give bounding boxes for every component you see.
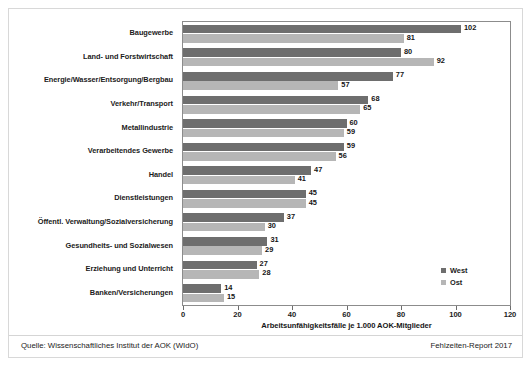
bar-value-west: 80	[404, 48, 412, 57]
bar-ost	[183, 129, 344, 138]
bar-ost	[183, 176, 295, 185]
x-tick-label: 60	[335, 310, 359, 319]
bar-value-ost: 59	[347, 128, 355, 137]
bar-value-ost: 57	[341, 81, 349, 90]
bar-west	[183, 96, 368, 105]
x-tick-label: 100	[444, 310, 468, 319]
bar-value-west: 59	[347, 142, 355, 151]
legend-item-west[interactable]: West	[441, 265, 497, 275]
category-label: Verkehr/Transport	[3, 99, 173, 108]
bar-ost	[183, 246, 262, 255]
bar-value-west: 45	[309, 189, 317, 198]
chart-footer: Quelle: Wissenschaftliches Institut der …	[9, 339, 522, 359]
bar-ost	[183, 34, 404, 43]
category-label: Banken/Versicherungen	[3, 288, 173, 297]
footer-report-text: Fehlzeiten-Report 2017	[431, 341, 512, 350]
category-label: Handel	[3, 170, 173, 179]
bar-west	[183, 261, 257, 270]
bar-value-ost: 30	[268, 222, 276, 231]
bar-value-west: 68	[371, 95, 379, 104]
chart-body: BaugewerbeLand- und ForstwirtschaftEnerg…	[9, 9, 522, 324]
category-label: Öffentl. Verwaltung/Sozialversicherung	[3, 217, 173, 226]
x-tick-label: 0	[171, 310, 195, 319]
bar-west	[183, 166, 311, 175]
bar-west	[183, 25, 461, 34]
plot-inner: WestOst 10281809277576865605959564741454…	[183, 22, 510, 305]
bar-value-ost: 15	[227, 293, 235, 302]
bar-value-west: 14	[224, 284, 232, 293]
footer-divider	[9, 335, 522, 336]
bar-west	[183, 190, 306, 199]
category-label: Energie/Wasser/Entsorgung/Bergbau	[3, 75, 173, 84]
x-tick-label: 40	[280, 310, 304, 319]
bar-ost	[183, 152, 336, 161]
bar-value-ost: 28	[262, 269, 270, 278]
bar-ost	[183, 105, 360, 114]
bar-west	[183, 143, 344, 152]
bar-ost	[183, 199, 306, 208]
bar-value-west: 60	[350, 119, 358, 128]
legend-item-ost[interactable]: Ost	[441, 277, 497, 287]
bar-west	[183, 119, 347, 128]
bar-ost	[183, 223, 265, 232]
category-label: Metallindustrie	[3, 123, 173, 132]
bar-ost	[183, 81, 338, 90]
bar-west	[183, 72, 393, 81]
bar-west	[183, 237, 267, 246]
x-tick-label: 20	[226, 310, 250, 319]
legend-swatch-icon	[441, 280, 446, 285]
bar-value-west: 27	[260, 260, 268, 269]
legend-swatch-icon	[441, 268, 446, 273]
bar-west	[183, 48, 401, 57]
bar-ost	[183, 58, 434, 67]
bar-value-ost: 41	[298, 175, 306, 184]
footer-source-text: Quelle: Wissenschaftliches Institut der …	[21, 341, 198, 350]
bar-value-ost: 29	[265, 246, 273, 255]
x-tick-label: 80	[389, 310, 413, 319]
category-label: Gesundheits- und Sozialwesen	[3, 241, 173, 250]
plot-area: WestOst 10281809277576865605959564741454…	[182, 21, 511, 306]
category-label: Dienstleistungen	[3, 193, 173, 202]
bar-ost	[183, 270, 259, 279]
bar-value-west: 102	[464, 24, 476, 33]
bar-value-ost: 45	[309, 199, 317, 208]
bar-value-west: 77	[396, 71, 404, 80]
bar-value-ost: 92	[437, 57, 445, 66]
x-axis-title: Arbeitsunfähigkeitsfälle je 1.000 AOK-Mi…	[182, 321, 511, 330]
bar-value-ost: 81	[407, 34, 415, 43]
bar-value-ost: 65	[363, 104, 371, 113]
bar-ost	[183, 294, 224, 303]
bar-west	[183, 284, 221, 293]
bar-value-west: 37	[287, 213, 295, 222]
category-label: Baugewerbe	[3, 28, 173, 37]
bar-value-west: 47	[314, 166, 322, 175]
category-label: Land- und Forstwirtschaft	[3, 52, 173, 61]
chart-figure: BaugewerbeLand- und ForstwirtschaftEnerg…	[8, 8, 523, 358]
bar-value-ost: 56	[339, 152, 347, 161]
legend-label: Ost	[450, 278, 462, 287]
category-label: Verarbeitendes Gewerbe	[3, 146, 173, 155]
category-axis-labels: BaugewerbeLand- und ForstwirtschaftEnerg…	[9, 21, 177, 306]
bar-value-west: 31	[270, 236, 278, 245]
category-label: Erziehung und Unterricht	[3, 264, 173, 273]
x-tick-label: 120	[498, 310, 522, 319]
legend-label: West	[450, 266, 468, 275]
chart-legend: WestOst	[441, 265, 497, 289]
